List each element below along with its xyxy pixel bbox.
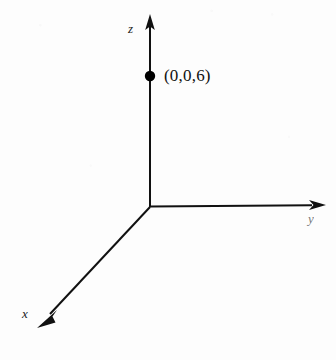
x-axis-arrowhead-icon [37,310,57,328]
plotted-point-marker [145,71,155,81]
axes-diagram-svg [0,0,336,360]
plotted-point-label: (0,0,6) [164,66,211,86]
y-axis-label: y [308,212,314,225]
x-axis-label: x [22,307,28,320]
x-axis-line [50,207,150,314]
z-axis-label: z [128,22,133,35]
y-axis-line [150,205,312,206]
coordinate-axes-figure: z y x (0,0,6) [0,0,336,360]
